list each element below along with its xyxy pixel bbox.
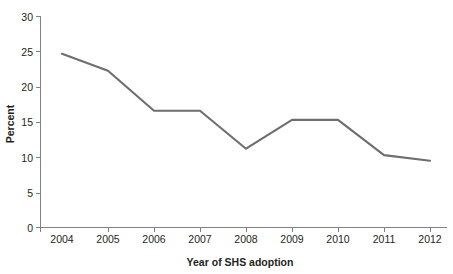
x-tick-label-2005: 2005: [96, 233, 120, 245]
y-tick-label-0: 0: [27, 222, 33, 234]
y-tick-label-30: 30: [21, 11, 33, 23]
x-tick-label-2012: 2012: [418, 233, 442, 245]
x-tick-label-2007: 2007: [188, 233, 212, 245]
y-tick-label-25: 25: [21, 46, 33, 58]
x-tick-label-2009: 2009: [280, 233, 304, 245]
x-axis-tick-labels: 2004 2005 2006 2007 2008 2009 2010 2011 …: [50, 233, 442, 245]
chart-canvas: 30 25 20 15 10 5 0 2004 2005 2006 2007: [0, 0, 453, 274]
x-tick-label-2004: 2004: [50, 233, 74, 245]
y-tick-label-5: 5: [27, 187, 33, 199]
x-axis-title: Year of SHS adoption: [187, 256, 294, 268]
data-series-line: [62, 54, 430, 161]
y-tick-label-20: 20: [21, 81, 33, 93]
x-tick-label-2011: 2011: [373, 233, 396, 245]
y-axis-ticks: [36, 17, 41, 228]
x-axis-ticks: [41, 228, 431, 233]
x-tick-label-2008: 2008: [234, 233, 258, 245]
y-axis-tick-labels: 30 25 20 15 10 5 0: [21, 11, 33, 234]
x-tick-label-2010: 2010: [326, 233, 350, 245]
y-axis-title: Percent: [4, 104, 16, 143]
x-tick-label-2006: 2006: [142, 233, 166, 245]
y-tick-label-15: 15: [21, 116, 33, 128]
y-tick-label-10: 10: [21, 152, 33, 164]
line-chart-figure: 30 25 20 15 10 5 0 2004 2005 2006 2007: [0, 0, 453, 274]
